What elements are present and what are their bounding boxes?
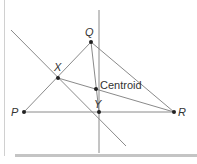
label-centroid: Centroid	[100, 79, 142, 91]
label-Y: Y	[94, 98, 102, 110]
label-X: X	[53, 61, 62, 73]
point-centroid	[94, 87, 98, 91]
point-Y	[97, 110, 101, 114]
point-X	[56, 76, 60, 80]
label-P: P	[11, 106, 19, 118]
point-R	[172, 110, 176, 114]
label-Q: Q	[85, 26, 94, 38]
segment-QR	[91, 42, 174, 112]
point-Q	[89, 40, 93, 44]
label-R: R	[178, 106, 186, 118]
bottom-bar	[15, 154, 197, 157]
geometry-diagram: P Q R X Y Centroid	[0, 0, 197, 164]
point-P	[22, 110, 26, 114]
